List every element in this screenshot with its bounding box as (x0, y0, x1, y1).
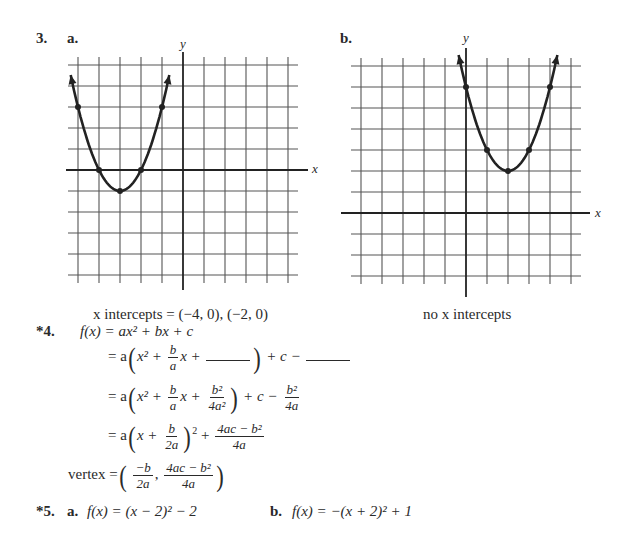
fraction-4ac-b2-over-4a: 4ac − b²4a (215, 421, 263, 452)
fraction-b-over-a: ba (168, 342, 179, 373)
blank-fill-1 (206, 360, 250, 361)
eq-prefix: = a (108, 427, 127, 443)
eq-term: x² + (137, 348, 162, 364)
problem-5b-equation: f(x) = −(x + 2)² + 1 (292, 503, 412, 520)
eq-prefix: = a (108, 348, 127, 364)
fraction-b-over-a: ba (168, 382, 179, 413)
problem-4-line3: = a(x² + bax + b²4a²) + c − b²4a (108, 382, 302, 413)
fraction-4ac-b2-over-4a: 4ac − b²4a (164, 460, 212, 491)
exponent: 2 (192, 425, 197, 436)
problem-4-number: *4. (36, 323, 55, 340)
eq-term: x + (180, 348, 201, 364)
caption-3b: no x intercepts (423, 306, 511, 323)
problem-5a-label: a. (67, 503, 78, 520)
problem-4-line2: = a(x² + bax + ) + c − (108, 342, 352, 373)
fraction-b2-over-4a: b²4a (283, 382, 300, 413)
eq-tail: + c − (243, 388, 277, 404)
fraction-neg-b-over-2a: −b2a (133, 460, 152, 491)
problem-4-vertex: vertex =( −b2a, 4ac − b²4a) (68, 460, 225, 491)
fraction-b2-over-4a2: b²4a² (206, 382, 227, 413)
problem-5b-label: b. (270, 503, 282, 520)
problem-4-line4: = a(x + b2a)2 + 4ac − b²4a (108, 421, 266, 452)
fraction-b-over-2a: b2a (163, 421, 180, 452)
eq-term: x + (137, 427, 158, 443)
eq-term: x + (180, 388, 201, 404)
problem-5a-equation: f(x) = (x − 2)² − 2 (87, 503, 197, 520)
eq-term: x² + (137, 388, 162, 404)
eq-prefix: = a (108, 388, 127, 404)
eq-tail: + (201, 427, 209, 443)
vertex-label: vertex = (68, 466, 118, 482)
graph-3b-x-label: x (595, 205, 601, 221)
eq-tail: + c − (266, 348, 300, 364)
caption-3a: x intercepts = (−4, 0), (−2, 0) (93, 306, 268, 323)
blank-fill-2 (306, 360, 350, 361)
problem-4-line1: f(x) = ax² + bx + c (80, 323, 193, 340)
problem-5-number: *5. (36, 503, 55, 520)
graph-3b-y-label: y (463, 30, 469, 46)
